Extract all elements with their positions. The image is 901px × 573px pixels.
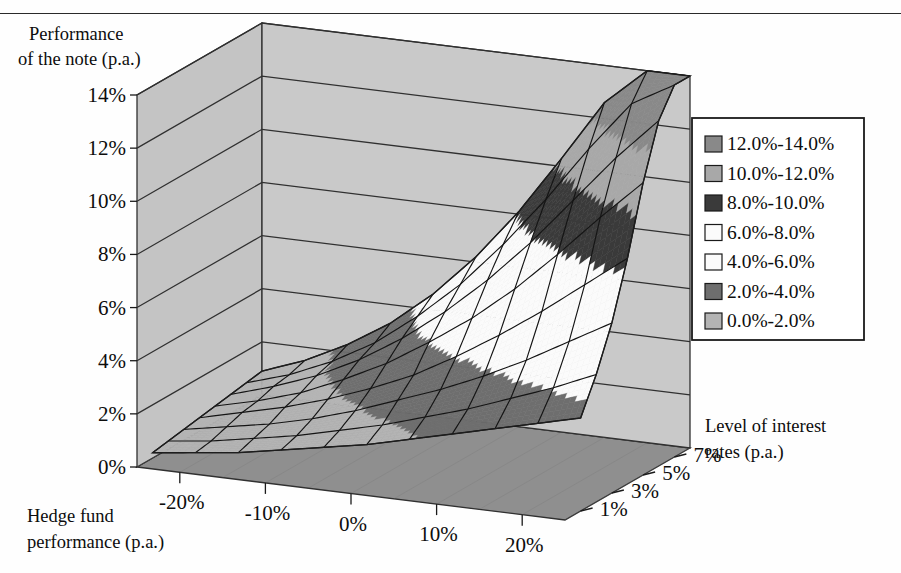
z-tick-label: 6% [98, 296, 126, 320]
z-axis-title-line1: Performance [29, 24, 124, 44]
legend-label: 0.0%-2.0% [727, 310, 815, 331]
legend-swatch [705, 195, 722, 211]
x-tick-label: -10% [245, 501, 291, 525]
z-tick-label: 4% [98, 349, 126, 373]
z-tick-label: 0% [98, 455, 126, 479]
legend-label: 4.0%-6.0% [727, 251, 815, 272]
legend-label: 10.0%-12.0% [727, 163, 834, 184]
y-axis-title-line2: rates (p.a.) [705, 442, 784, 463]
x-tick-label: -20% [159, 490, 205, 514]
z-tick-label: 14% [88, 83, 127, 107]
z-axis-title-line2: of the note (p.a.) [18, 49, 141, 70]
surface-chart: 0%2%4%6%8%10%12%14%-20%-10%0%10%20%1%3%5… [0, 0, 901, 573]
figure-root: 0%2%4%6%8%10%12%14%-20%-10%0%10%20%1%3%5… [0, 0, 901, 573]
legend-swatch [705, 313, 722, 329]
y-tick-label: 3% [631, 479, 659, 503]
legend-label: 2.0%-4.0% [727, 281, 815, 302]
legend-item: 6.0%-8.0% [705, 222, 815, 243]
legend-label: 8.0%-10.0% [727, 192, 824, 213]
legend-item: 2.0%-4.0% [705, 281, 815, 302]
z-tick-label: 2% [98, 402, 126, 426]
legend-item: 4.0%-6.0% [705, 251, 815, 272]
x-tick-label: 0% [339, 512, 367, 536]
z-tick-label: 10% [88, 189, 127, 213]
legend-box: 12.0%-14.0%10.0%-12.0%8.0%-10.0%6.0%-8.0… [692, 118, 864, 340]
y-tick-label: 5% [662, 461, 690, 485]
z-tick-label: 8% [98, 242, 126, 266]
x-axis-title-line2: performance (p.a.) [27, 532, 164, 553]
x-tick-label: 20% [505, 533, 544, 557]
legend-label: 12.0%-14.0% [727, 133, 834, 154]
z-tick-label: 12% [88, 136, 127, 160]
y-tick-label: 1% [600, 497, 628, 521]
legend-swatch [705, 254, 722, 270]
legend-item: 0.0%-2.0% [705, 310, 815, 331]
legend-label: 6.0%-8.0% [727, 222, 815, 243]
legend-swatch [705, 225, 722, 241]
x-tick-label: 10% [419, 522, 458, 546]
x-axis-title-line1: Hedge fund [27, 506, 115, 526]
legend-swatch [705, 284, 722, 300]
legend-swatch [705, 166, 722, 182]
y-axis-title-line1: Level of interest [705, 416, 827, 436]
legend-swatch [705, 136, 722, 152]
